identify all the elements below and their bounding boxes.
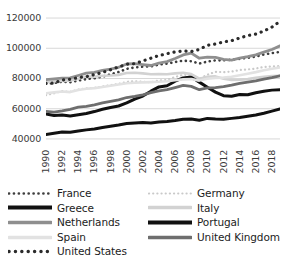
x-tick-label: 2016 (251, 150, 261, 173)
legend-item-united-states[interactable]: United States (8, 244, 148, 259)
plot-svg (46, 12, 280, 148)
legend-item-france[interactable]: France (8, 186, 148, 201)
x-tick-label: 2012 (219, 150, 229, 173)
legend-label: Netherlands (57, 217, 120, 228)
legend-label: Germany (197, 188, 245, 199)
legend-swatch-icon (8, 202, 52, 213)
legend-label: United Kingdom (197, 232, 280, 243)
x-tick-label: 2018 (267, 150, 277, 173)
legend-swatch-icon (148, 188, 192, 199)
chart-legend: FranceGermanyGreeceItalyNetherlandsPortu… (8, 186, 280, 260)
legend-swatch-icon (148, 202, 192, 213)
legend-label: Spain (57, 232, 86, 243)
legend-item-germany[interactable]: Germany (148, 186, 284, 201)
legend-item-portugal[interactable]: Portugal (148, 215, 284, 230)
plot-area (46, 12, 280, 148)
x-tick-label: 1998 (106, 150, 116, 173)
legend-label: Italy (197, 203, 219, 214)
y-tick-label: 40000 (12, 134, 41, 144)
legend-item-united-kingdom[interactable]: United Kingdom (148, 230, 284, 245)
legend-label: Greece (57, 203, 94, 214)
legend-item-italy[interactable]: Italy (148, 201, 284, 216)
legend-label: United States (57, 246, 127, 257)
legend-item-netherlands[interactable]: Netherlands (8, 215, 148, 230)
legend-swatch-icon (8, 232, 52, 243)
x-axis: 1990199219941996199820002002200420062008… (46, 150, 280, 184)
x-tick-label: 1990 (41, 150, 51, 173)
legend-label: Portugal (197, 217, 240, 228)
x-tick-label: 2014 (235, 150, 245, 173)
x-tick-label: 2002 (138, 150, 148, 173)
x-tick-label: 2000 (122, 150, 132, 173)
x-tick-label: 1992 (57, 150, 67, 173)
y-tick-label: 120000 (6, 13, 41, 23)
y-tick-label: 100000 (6, 44, 41, 54)
line-chart: 400006000080000100000120000 199019921994… (0, 0, 286, 264)
y-tick-label: 60000 (12, 104, 41, 114)
x-tick-label: 1994 (73, 150, 83, 173)
legend-item-greece[interactable]: Greece (8, 201, 148, 216)
legend-swatch-icon (8, 246, 52, 257)
x-tick-label: 2004 (154, 150, 164, 173)
legend-label: France (57, 188, 91, 199)
legend-item-spain[interactable]: Spain (8, 230, 148, 245)
legend-swatch-icon (148, 232, 192, 243)
x-tick-label: 2008 (186, 150, 196, 173)
y-axis: 400006000080000100000120000 (0, 12, 44, 148)
y-tick-label: 80000 (12, 74, 41, 84)
x-tick-label: 1996 (89, 150, 99, 173)
x-tick-label: 2010 (202, 150, 212, 173)
legend-swatch-icon (8, 217, 52, 228)
legend-swatch-icon (148, 217, 192, 228)
legend-swatch-icon (8, 188, 52, 199)
x-tick-label: 2006 (170, 150, 180, 173)
